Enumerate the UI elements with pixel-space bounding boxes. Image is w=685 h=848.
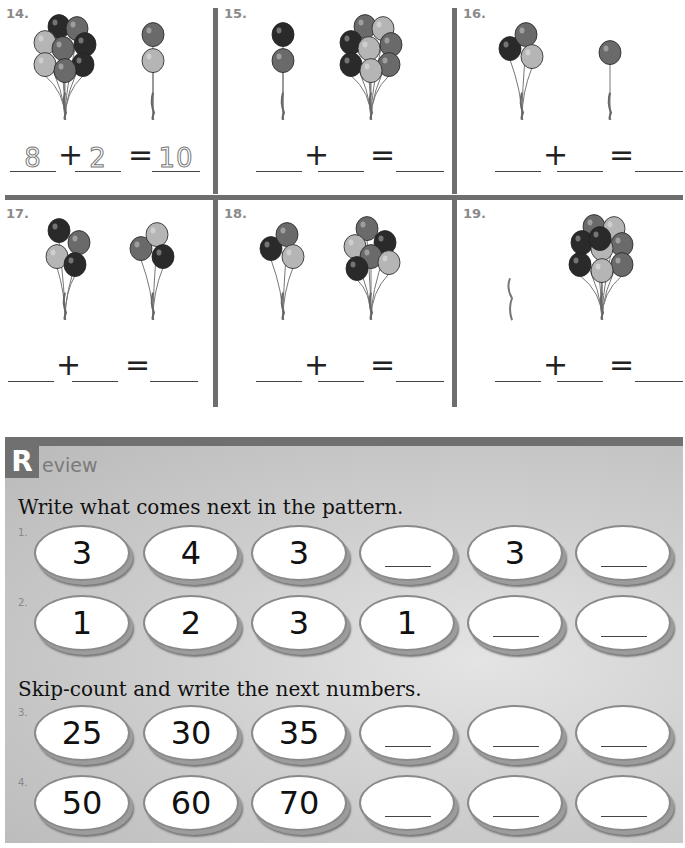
- addition-equation: 8 + 2 = 10: [0, 140, 228, 180]
- addition-problem-17: 17. + =: [0, 200, 228, 395]
- equals-sign: =: [370, 350, 395, 380]
- balloon-group-left-icon: [465, 204, 555, 343]
- oval-number: 30: [171, 714, 212, 752]
- number-oval: 3: [251, 595, 347, 651]
- number-oval: 30: [143, 705, 239, 761]
- equals-sign: =: [125, 350, 150, 380]
- balloon-group-right-icon: [565, 4, 655, 143]
- balloon-group-right-icon: [326, 4, 416, 143]
- addend1-blank[interactable]: 8: [10, 145, 56, 172]
- review-row-label: 1.: [18, 527, 28, 538]
- equals-sign: =: [128, 140, 153, 170]
- number-oval: 60: [143, 775, 239, 831]
- addend2-blank[interactable]: [72, 355, 118, 382]
- answer-oval-blank[interactable]: [467, 775, 563, 831]
- oval-number: 25: [62, 714, 103, 752]
- addend2-blank[interactable]: 2: [75, 145, 121, 172]
- addition-equation: + =: [218, 140, 446, 180]
- number-oval: 50: [34, 775, 130, 831]
- addend1-blank[interactable]: [495, 145, 541, 172]
- addend2-blank[interactable]: [557, 355, 603, 382]
- oval-number: 3: [72, 534, 92, 572]
- sum-blank[interactable]: [635, 145, 683, 172]
- review-section: R eview Write what comes next in the pat…: [5, 437, 683, 843]
- addition-equation: + =: [0, 350, 228, 390]
- addend1-blank[interactable]: [495, 355, 541, 382]
- answer-line[interactable]: [385, 816, 431, 817]
- number-oval: 70: [251, 775, 347, 831]
- equals-sign: =: [609, 140, 634, 170]
- answer-line[interactable]: [601, 636, 647, 637]
- review-top-bar: [5, 437, 683, 446]
- review-row-label: 4.: [18, 777, 28, 788]
- oval-number: 3: [289, 534, 309, 572]
- addition-problem-19: 19. + =: [457, 200, 685, 395]
- answer-line[interactable]: [385, 566, 431, 567]
- addition-problem-15: 15. + =: [218, 0, 446, 195]
- oval-number: 3: [505, 534, 525, 572]
- oval-number: 4: [181, 534, 201, 572]
- number-oval: 3: [251, 525, 347, 581]
- addend1-blank[interactable]: [8, 355, 54, 382]
- answer-oval-blank[interactable]: [467, 705, 563, 761]
- answer-line[interactable]: [493, 746, 539, 747]
- review-row-label: 3.: [18, 707, 28, 718]
- oval-number: 1: [397, 604, 417, 642]
- sum-blank[interactable]: [150, 355, 198, 382]
- answer-line[interactable]: [601, 746, 647, 747]
- answer-oval-blank[interactable]: [575, 705, 671, 761]
- answer-line[interactable]: [493, 636, 539, 637]
- equals-sign: =: [370, 140, 395, 170]
- addition-equation: + =: [218, 350, 446, 390]
- balloon-group-left-icon: [20, 204, 110, 343]
- sum-blank[interactable]: [635, 355, 683, 382]
- balloon-group-right-icon: [326, 204, 416, 343]
- answer-oval-blank[interactable]: [575, 595, 671, 651]
- addition-equation: + =: [457, 140, 685, 180]
- answer-line[interactable]: [493, 816, 539, 817]
- sum-blank[interactable]: [396, 355, 444, 382]
- addend1-blank[interactable]: [256, 355, 302, 382]
- skip-count-instruction: Skip-count and write the next numbers.: [18, 677, 422, 701]
- oval-number: 2: [181, 604, 201, 642]
- balloon-group-left-icon: [477, 4, 567, 143]
- balloon-group-right-icon: [108, 4, 198, 143]
- number-oval: 1: [34, 595, 130, 651]
- addition-problem-14: 14. 8 + 2 = 10: [0, 0, 228, 195]
- addition-problem-18: 18. + =: [218, 200, 446, 395]
- addend2-blank[interactable]: [557, 145, 603, 172]
- sum-blank[interactable]: [396, 145, 444, 172]
- review-initial: R: [5, 446, 39, 478]
- pattern-instruction: Write what comes next in the pattern.: [18, 495, 403, 519]
- answer-line[interactable]: [601, 566, 647, 567]
- addend2-blank[interactable]: [318, 355, 364, 382]
- number-oval: 35: [251, 705, 347, 761]
- number-oval: 2: [143, 595, 239, 651]
- answer-oval-blank[interactable]: [575, 775, 671, 831]
- answer-oval-blank[interactable]: [359, 705, 455, 761]
- oval-number: 1: [72, 604, 92, 642]
- number-oval: 3: [467, 525, 563, 581]
- oval-number: 50: [62, 784, 103, 822]
- answer-oval-blank[interactable]: [359, 775, 455, 831]
- addend2-blank[interactable]: [318, 145, 364, 172]
- addition-equation: + =: [457, 350, 685, 390]
- oval-number: 60: [171, 784, 212, 822]
- number-oval: 4: [143, 525, 239, 581]
- equals-sign: =: [609, 350, 634, 380]
- balloon-group-left-icon: [20, 4, 110, 143]
- answer-oval-blank[interactable]: [575, 525, 671, 581]
- sum-blank[interactable]: 10: [152, 145, 200, 172]
- answer-line[interactable]: [385, 746, 431, 747]
- answer-oval-blank[interactable]: [467, 595, 563, 651]
- number-oval: 3: [34, 525, 130, 581]
- number-oval: 1: [359, 595, 455, 651]
- addition-problem-16: 16. + =: [457, 0, 685, 195]
- answer-line[interactable]: [601, 816, 647, 817]
- addend1-blank[interactable]: [256, 145, 302, 172]
- balloon-group-left-icon: [238, 204, 328, 343]
- oval-number: 35: [279, 714, 320, 752]
- answer-oval-blank[interactable]: [359, 525, 455, 581]
- balloon-group-right-icon: [108, 204, 198, 343]
- balloon-group-left-icon: [238, 4, 328, 143]
